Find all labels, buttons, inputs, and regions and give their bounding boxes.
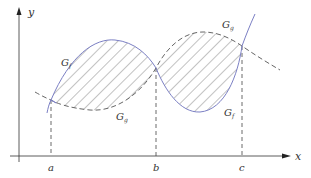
label-gf-left: Gf	[61, 57, 73, 70]
x-axis	[10, 154, 291, 159]
label-gg-bottom: Gg	[116, 111, 128, 124]
label-gg-top: Gg	[222, 19, 234, 32]
tick-label-a: a	[48, 162, 54, 173]
y-axis-label: y	[27, 6, 35, 19]
tick-label-c: c	[239, 162, 245, 173]
y-axis	[17, 7, 22, 162]
area-between-curves-diagram: y x a b c Gf Gg Gg Gf	[0, 0, 311, 178]
hatched-region-b-c	[0, 0, 311, 178]
hatched-region-a-b	[0, 0, 311, 178]
tick-label-b: b	[153, 162, 159, 173]
x-axis-arrow-icon	[282, 154, 291, 159]
label-gf-right: Gf	[224, 107, 236, 120]
y-axis-arrow-icon	[17, 7, 22, 15]
x-axis-label: x	[295, 150, 302, 163]
